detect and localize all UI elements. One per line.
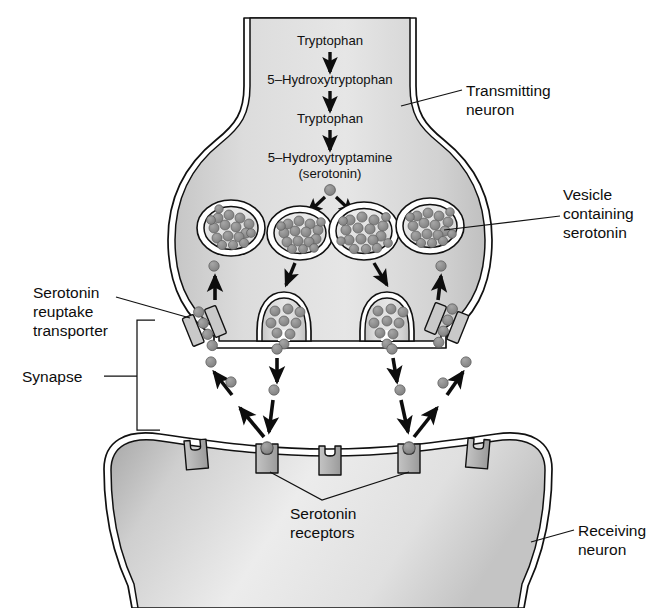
pathway-step-4: 5–Hydroxytryptamine <box>268 150 393 165</box>
label-transporter-line2: reuptake <box>33 303 93 320</box>
reuptake-arrow-right-bottom <box>414 408 437 437</box>
serotonin-receptor-bound[interactable] <box>398 442 420 473</box>
vesicle <box>396 198 464 254</box>
serotonin-molecule-source <box>325 185 336 196</box>
serotonin-molecule <box>461 357 471 367</box>
bound-serotonin <box>403 442 415 454</box>
pathway-step-5: (serotonin) <box>298 166 361 181</box>
bound-serotonin <box>261 442 273 454</box>
label-receiving-neuron-line2: neuron <box>578 541 626 558</box>
label-synapse: Synapse <box>22 368 82 385</box>
label-receptors-line1: Serotonin <box>290 505 356 522</box>
serotonin-receptor-bound[interactable] <box>256 442 278 473</box>
serotonin-molecule <box>387 344 397 354</box>
synapse-bracket <box>137 320 160 430</box>
vesicle <box>267 206 333 260</box>
release-arrow-right-lower <box>401 400 408 432</box>
serotonin-molecule <box>395 385 405 395</box>
reuptake-arrow-left-bottom <box>240 408 264 437</box>
pathway-step-3: Tryptophan <box>297 111 363 126</box>
serotonin-molecule <box>436 261 446 271</box>
diagram-canvas: Tryptophan 5–Hydroxytryptophan Tryptopha… <box>0 0 656 608</box>
serotonin-molecule <box>438 378 448 388</box>
label-vesicle-line1: Vesicle <box>563 186 612 203</box>
leader-transporter <box>116 297 190 318</box>
serotonin-molecule <box>209 261 219 271</box>
serotonin-molecule <box>206 357 216 367</box>
label-transporter-line3: transporter <box>33 322 108 339</box>
vesicle <box>329 202 399 260</box>
label-transmitting-neuron-line1: Transmitting <box>466 82 551 99</box>
serotonin-molecule <box>269 385 279 395</box>
label-vesicle-line3: serotonin <box>563 224 627 241</box>
reuptake-arrow-right-lower <box>447 372 463 395</box>
label-vesicle-line2: containing <box>563 205 634 222</box>
serotonin-molecule <box>226 377 236 387</box>
serotonin-synapse-figure: Tryptophan 5–Hydroxytryptophan Tryptopha… <box>0 0 656 608</box>
release-arrow-right <box>393 358 397 382</box>
label-receptors-line2: receptors <box>290 524 355 541</box>
serotonin-molecule <box>272 344 282 354</box>
pathway-step-1: Tryptophan <box>297 33 363 48</box>
label-transmitting-neuron-line2: neuron <box>466 101 514 118</box>
label-transporter-line1: Serotonin <box>33 284 99 301</box>
label-receiving-neuron-line1: Receiving <box>578 522 646 539</box>
pathway-step-2: 5–Hydroxytryptophan <box>267 72 392 87</box>
release-arrow-left-lower <box>269 400 273 432</box>
vesicle <box>197 200 265 256</box>
